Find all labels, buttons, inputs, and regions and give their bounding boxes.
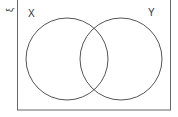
universal-set-symbol: ξ: [5, 8, 15, 12]
venn-diagram: ξ X Y: [0, 0, 178, 117]
set-y-label: Y: [148, 7, 155, 18]
set-y-circle: [80, 18, 162, 100]
set-x-label: X: [28, 8, 35, 19]
set-x-circle: [26, 18, 108, 100]
